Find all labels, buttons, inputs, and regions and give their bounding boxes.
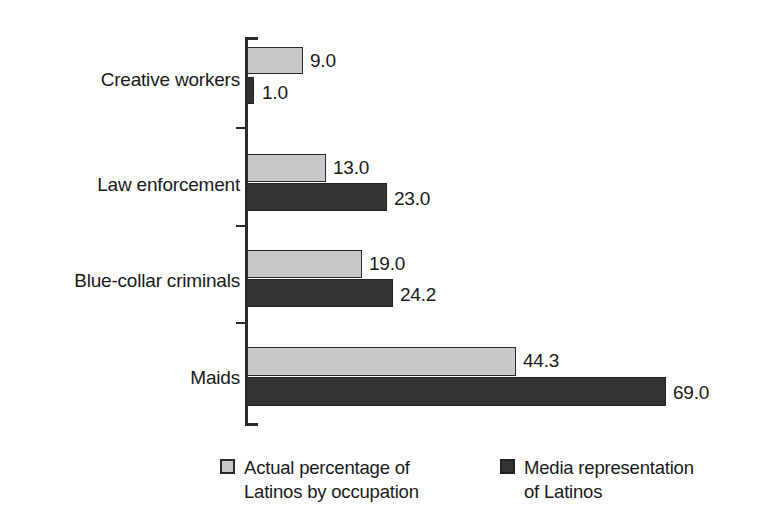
axis-tick-2	[236, 322, 246, 324]
bar-value-actual-3: 44.3	[523, 351, 559, 371]
bar-media-1	[246, 183, 387, 211]
bar-actual-3	[246, 347, 516, 376]
category-axis	[245, 37, 248, 426]
category-label-2: Blue-collar criminals	[74, 271, 240, 291]
axis-tick-0	[236, 127, 246, 129]
bar-actual-2	[246, 250, 362, 278]
category-label-0: Creative workers	[101, 70, 240, 90]
legend-item-media: Media representation of Latinos	[500, 456, 694, 504]
chart-legend: Actual percentage of Latinos by occupati…	[0, 448, 760, 525]
bar-value-actual-1: 13.0	[333, 158, 369, 178]
legend-swatch-media-icon	[500, 459, 515, 474]
axis-cap-top	[245, 37, 258, 40]
bar-value-actual-2: 19.0	[369, 254, 405, 274]
axis-tick-1	[236, 225, 246, 227]
bar-media-3	[246, 377, 666, 406]
plot-area: Creative workers 9.0 1.0 Law enforcement…	[0, 0, 760, 440]
bar-value-media-2: 24.2	[400, 285, 436, 305]
bar-actual-1	[246, 154, 326, 182]
axis-cap-bottom	[245, 423, 258, 426]
category-label-3: Maids	[190, 368, 240, 388]
legend-item-actual: Actual percentage of Latinos by occupati…	[220, 456, 419, 504]
legend-label-media: Media representation of Latinos	[524, 456, 694, 504]
legend-label-actual: Actual percentage of Latinos by occupati…	[244, 456, 419, 504]
category-label-1: Law enforcement	[97, 175, 240, 195]
bar-value-media-3: 69.0	[673, 383, 709, 403]
bar-media-2	[246, 279, 393, 307]
legend-swatch-actual-icon	[220, 459, 235, 474]
bar-chart: Creative workers 9.0 1.0 Law enforcement…	[0, 0, 760, 525]
bar-value-actual-0: 9.0	[310, 51, 336, 71]
bar-actual-0	[246, 47, 303, 74]
bar-value-media-0: 1.0	[262, 83, 288, 103]
bar-value-media-1: 23.0	[394, 189, 430, 209]
